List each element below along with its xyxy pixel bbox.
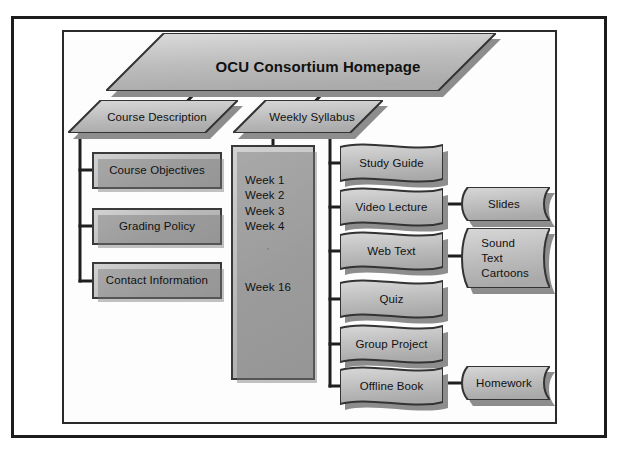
course-description-label: Course Description: [107, 110, 207, 124]
group-project-label: Group Project: [355, 337, 427, 351]
diagram-canvas: OCU Consortium Homepage Course Descripti…: [0, 0, 621, 453]
node-weeks-list[interactable]: Week 1 Week 2 Week 3 Week 4 Week 16: [231, 145, 315, 380]
grading-policy-label: Grading Policy: [119, 219, 195, 233]
slides-label: Slides: [488, 197, 520, 211]
node-homework[interactable]: Homework: [458, 366, 550, 400]
offline-book-label: Offline Book: [360, 379, 424, 393]
weeks-range-label: Week 1 Week 2 Week 3 Week 4: [245, 174, 284, 233]
node-sound-text-cartoons[interactable]: Sound Text Cartoons: [458, 228, 550, 288]
node-course-description[interactable]: Course Description: [68, 100, 238, 133]
node-web-text[interactable]: Web Text: [340, 231, 443, 271]
study-guide-label: Study Guide: [359, 156, 423, 170]
weekly-syllabus-label: Weekly Syllabus: [269, 110, 355, 124]
web-text-label: Web Text: [367, 244, 415, 258]
contact-information-label: Contact Information: [106, 273, 208, 287]
homepage-title-label: OCU Consortium Homepage: [216, 58, 421, 77]
homework-label: Homework: [476, 376, 532, 390]
node-grading-policy[interactable]: Grading Policy: [92, 208, 222, 245]
node-weekly-syllabus[interactable]: Weekly Syllabus: [233, 100, 383, 133]
weeks-list-text: Week 1 Week 2 Week 3 Week 4 Week 16: [245, 157, 291, 296]
node-study-guide[interactable]: Study Guide: [340, 143, 443, 183]
node-quiz[interactable]: Quiz: [340, 279, 443, 319]
node-slides[interactable]: Slides: [458, 187, 550, 221]
node-homepage-title[interactable]: OCU Consortium Homepage: [106, 33, 496, 91]
node-course-objectives[interactable]: Course Objectives: [92, 152, 222, 189]
node-video-lecture[interactable]: Video Lecture: [340, 187, 443, 227]
video-lecture-label: Video Lecture: [355, 200, 427, 214]
node-contact-information[interactable]: Contact Information: [92, 262, 222, 299]
sound-text-cartoons-label: Sound Text Cartoons: [481, 236, 528, 281]
course-objectives-label: Course Objectives: [109, 163, 205, 177]
quiz-label: Quiz: [379, 292, 403, 306]
node-offline-book[interactable]: Offline Book: [340, 366, 443, 406]
weeks-ellipsis: [245, 235, 291, 265]
node-group-project[interactable]: Group Project: [340, 324, 443, 364]
week-16-label: Week 16: [245, 281, 291, 293]
